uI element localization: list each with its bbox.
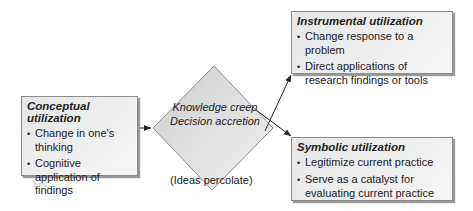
conceptual-item: Cognitive application of findings [27, 157, 132, 197]
instrumental-utilization-box: Instrumental utilization Change response… [291, 11, 453, 74]
decision-accretion-label: Decision accretion [160, 114, 270, 128]
instrumental-title: Instrumental utilization [297, 15, 447, 27]
knowledge-creep-diamond [153, 66, 273, 190]
margin-mark: hrs [33, 180, 46, 189]
conceptual-title: Conceptual utilization [27, 100, 132, 124]
symbolic-item: Serve as a catalyst for evaluating curre… [297, 173, 447, 200]
ideas-percolate-caption: (Ideas percolate) [170, 174, 253, 186]
knowledge-creep-label: Knowledge creep [160, 100, 270, 114]
symbolic-title: Symbolic utilization [297, 141, 447, 153]
symbolic-item: Legitimize current practice [297, 156, 447, 170]
conceptual-utilization-box: Conceptual utilization Change in one's t… [21, 96, 138, 176]
symbolic-utilization-box: Symbolic utilization Legitimize current … [291, 137, 453, 201]
instrumental-item: Direct applications of research findings… [297, 60, 447, 87]
diamond-label: Knowledge creep Decision accretion [160, 100, 270, 128]
instrumental-item: Change response to a problem [297, 30, 447, 57]
conceptual-item: Change in one's thinking [27, 127, 132, 154]
